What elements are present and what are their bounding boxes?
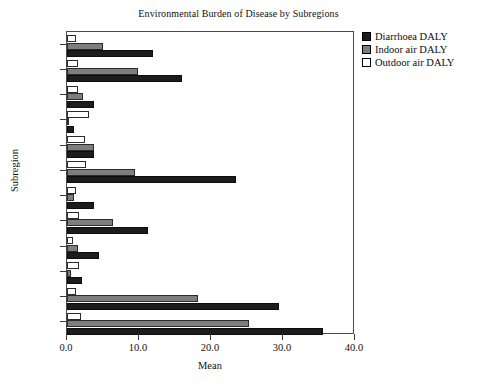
bar[interactable] [67, 320, 249, 327]
chart-legend: Diarrhoea DALYIndoor air DALYOutdoor air… [362, 30, 474, 69]
bar[interactable] [67, 86, 78, 93]
x-axis-tick-label: 20.0 [185, 342, 235, 353]
bar-group [67, 310, 353, 335]
bar[interactable] [67, 43, 103, 50]
legend-swatch-icon [362, 32, 371, 41]
y-axis-tick [60, 94, 66, 95]
bar[interactable] [67, 111, 89, 118]
chart-figure: Environmental Burden of Disease by Subre… [0, 0, 477, 392]
bar[interactable] [67, 245, 78, 252]
bar[interactable] [67, 227, 148, 234]
x-axis-tick [138, 334, 139, 340]
bar[interactable] [67, 75, 182, 82]
plot-area [66, 31, 354, 334]
bar[interactable] [67, 288, 76, 295]
bar-group [67, 57, 353, 82]
bar[interactable] [67, 202, 94, 209]
bar-group [67, 234, 353, 259]
bar-group [67, 32, 353, 57]
x-axis-tick-label: 10.0 [113, 342, 163, 353]
bar-group [67, 285, 353, 310]
bar[interactable] [67, 68, 138, 75]
y-axis-tick [60, 271, 66, 272]
y-axis-tick [60, 321, 66, 322]
legend-item[interactable]: Diarrhoea DALY [362, 30, 474, 43]
y-axis-tick [60, 69, 66, 70]
x-axis-tick-label: 30.0 [257, 342, 307, 353]
chart-title: Environmental Burden of Disease by Subre… [0, 8, 477, 19]
y-axis-tick [60, 44, 66, 45]
legend-item-label: Outdoor air DALY [375, 57, 454, 69]
legend-item[interactable]: Outdoor air DALY [362, 56, 474, 69]
bar[interactable] [67, 136, 85, 143]
bar[interactable] [67, 270, 71, 277]
y-axis-tick [60, 170, 66, 171]
y-axis-title: Subregion [9, 131, 20, 211]
bar-group [67, 209, 353, 234]
y-axis-tick [60, 195, 66, 196]
bar-group [67, 108, 353, 133]
bar[interactable] [67, 151, 94, 158]
bar[interactable] [67, 295, 198, 302]
y-axis-tick [60, 246, 66, 247]
bar-group [67, 133, 353, 158]
bar[interactable] [67, 237, 73, 244]
bar[interactable] [67, 303, 279, 310]
bars-layer [67, 32, 353, 333]
x-axis-tick [282, 334, 283, 340]
bar-group [67, 184, 353, 209]
legend-swatch-icon [362, 45, 371, 54]
bar[interactable] [67, 176, 236, 183]
bar-group [67, 158, 353, 183]
bar[interactable] [67, 101, 94, 108]
bar-group [67, 83, 353, 108]
legend-swatch-icon [362, 58, 371, 67]
legend-item-label: Indoor air DALY [375, 44, 447, 56]
bar[interactable] [67, 169, 135, 176]
bar[interactable] [67, 262, 79, 269]
bar[interactable] [67, 161, 86, 168]
legend-item[interactable]: Indoor air DALY [362, 43, 474, 56]
bar[interactable] [67, 277, 82, 284]
y-axis-tick [60, 296, 66, 297]
x-axis-tick [210, 334, 211, 340]
x-axis-tick-label: 40.0 [329, 342, 379, 353]
bar[interactable] [67, 126, 74, 133]
y-axis-tick [60, 145, 66, 146]
bar[interactable] [67, 313, 81, 320]
bar[interactable] [67, 252, 99, 259]
bar[interactable] [67, 219, 113, 226]
y-axis-tick [60, 220, 66, 221]
bar[interactable] [67, 187, 76, 194]
bar[interactable] [67, 50, 153, 57]
bar[interactable] [67, 212, 79, 219]
bar-group [67, 259, 353, 284]
x-axis-tick [354, 334, 355, 340]
bar[interactable] [67, 328, 323, 335]
y-axis-tick [60, 119, 66, 120]
bar[interactable] [67, 93, 83, 100]
legend-item-label: Diarrhoea DALY [375, 31, 448, 43]
x-axis-tick [66, 334, 67, 340]
bar[interactable] [67, 144, 94, 151]
x-axis-tick-label: 0.0 [41, 342, 91, 353]
bar[interactable] [67, 60, 78, 67]
bar[interactable] [67, 35, 76, 42]
bar[interactable] [67, 118, 69, 125]
x-axis-title: Mean [66, 360, 354, 371]
bar[interactable] [67, 194, 74, 201]
